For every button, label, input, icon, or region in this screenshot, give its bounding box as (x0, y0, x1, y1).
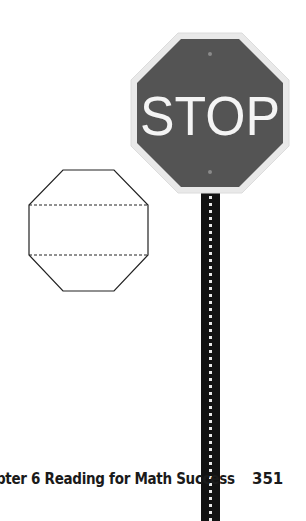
post-hole (209, 364, 212, 367)
post-hole (209, 434, 212, 437)
post-hole (209, 259, 212, 262)
post-hole (209, 329, 212, 332)
post-hole (209, 511, 212, 514)
post-hole (209, 245, 212, 248)
post-hole (209, 301, 212, 304)
post-hole (209, 490, 212, 493)
post-hole (209, 350, 212, 353)
post-hole (209, 224, 212, 227)
post-hole (209, 343, 212, 346)
post-hole (209, 462, 212, 465)
stop-sign-text: STOP (140, 84, 280, 147)
post-hole (209, 336, 212, 339)
post-hole (209, 406, 212, 409)
post-hole (209, 231, 212, 234)
post-hole (209, 378, 212, 381)
post-hole (209, 399, 212, 402)
post-hole (209, 294, 212, 297)
post-hole (209, 413, 212, 416)
post-hole (209, 385, 212, 388)
chapter-footer: pter 6 Reading for Math Success (0, 470, 235, 488)
post-hole (209, 217, 212, 220)
post-hole (209, 210, 212, 213)
post-hole (209, 322, 212, 325)
post-hole (209, 315, 212, 318)
post-hole (209, 196, 212, 199)
octagon-fold-diagram (0, 160, 170, 300)
post-hole (209, 504, 212, 507)
post-hole (209, 287, 212, 290)
post-hole (209, 455, 212, 458)
post-hole (209, 238, 212, 241)
post-hole (209, 252, 212, 255)
post-hole (209, 497, 212, 500)
post-hole (209, 273, 212, 276)
post-hole (209, 448, 212, 451)
post-hole (209, 371, 212, 374)
page-number: 351 (252, 470, 283, 488)
post-hole (209, 441, 212, 444)
post-hole (209, 203, 212, 206)
post-hole (209, 280, 212, 283)
post-hole (209, 427, 212, 430)
post-hole (209, 308, 212, 311)
post-hole (209, 357, 212, 360)
post-hole (209, 392, 212, 395)
post-hole (209, 266, 212, 269)
post-hole (209, 420, 212, 423)
